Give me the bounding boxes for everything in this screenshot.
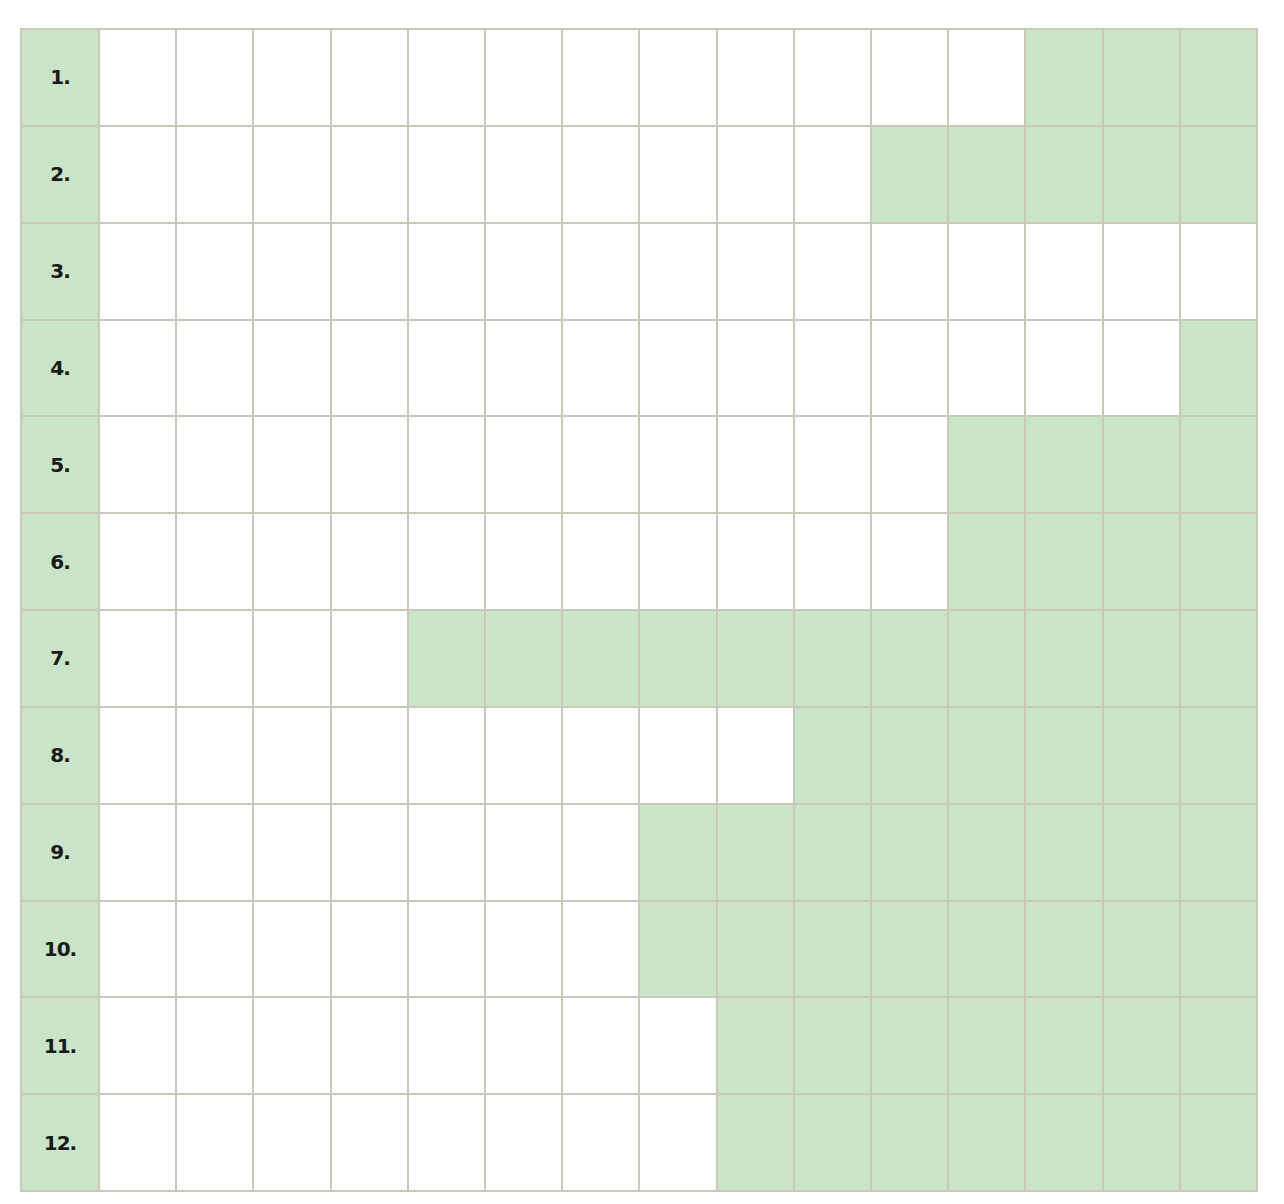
- grid-cell-empty[interactable]: [718, 514, 793, 609]
- grid-cell-empty[interactable]: [332, 321, 407, 416]
- grid-cell-empty[interactable]: [486, 417, 561, 512]
- grid-cell-empty[interactable]: [409, 127, 484, 222]
- grid-cell-empty[interactable]: [100, 417, 175, 512]
- grid-cell-empty[interactable]: [100, 805, 175, 900]
- grid-cell-empty[interactable]: [100, 127, 175, 222]
- grid-cell-empty[interactable]: [332, 1095, 407, 1190]
- grid-cell-empty[interactable]: [177, 127, 252, 222]
- grid-cell-empty[interactable]: [254, 998, 329, 1093]
- grid-cell-empty[interactable]: [177, 708, 252, 803]
- grid-cell-empty[interactable]: [486, 127, 561, 222]
- grid-cell-empty[interactable]: [640, 224, 715, 319]
- grid-cell-empty[interactable]: [332, 902, 407, 997]
- grid-cell-empty[interactable]: [254, 417, 329, 512]
- grid-cell-empty[interactable]: [640, 998, 715, 1093]
- grid-cell-empty[interactable]: [177, 998, 252, 1093]
- grid-cell-empty[interactable]: [100, 321, 175, 416]
- grid-cell-empty[interactable]: [486, 514, 561, 609]
- grid-cell-empty[interactable]: [486, 321, 561, 416]
- grid-cell-empty[interactable]: [177, 1095, 252, 1190]
- grid-cell-empty[interactable]: [332, 708, 407, 803]
- grid-cell-empty[interactable]: [486, 998, 561, 1093]
- grid-cell-empty[interactable]: [563, 902, 638, 997]
- grid-cell-empty[interactable]: [640, 417, 715, 512]
- grid-cell-empty[interactable]: [718, 127, 793, 222]
- grid-cell-empty[interactable]: [718, 30, 793, 125]
- grid-cell-empty[interactable]: [177, 805, 252, 900]
- grid-cell-empty[interactable]: [177, 514, 252, 609]
- grid-cell-empty[interactable]: [332, 805, 407, 900]
- grid-cell-empty[interactable]: [563, 708, 638, 803]
- grid-cell-empty[interactable]: [254, 708, 329, 803]
- grid-cell-empty[interactable]: [486, 30, 561, 125]
- grid-cell-empty[interactable]: [409, 224, 484, 319]
- grid-cell-empty[interactable]: [254, 1095, 329, 1190]
- grid-cell-empty[interactable]: [563, 321, 638, 416]
- grid-cell-empty[interactable]: [100, 902, 175, 997]
- grid-cell-empty[interactable]: [100, 998, 175, 1093]
- grid-cell-empty[interactable]: [177, 417, 252, 512]
- grid-cell-empty[interactable]: [409, 417, 484, 512]
- grid-cell-empty[interactable]: [409, 708, 484, 803]
- grid-cell-empty[interactable]: [486, 805, 561, 900]
- grid-cell-empty[interactable]: [100, 708, 175, 803]
- grid-cell-empty[interactable]: [949, 224, 1024, 319]
- grid-cell-empty[interactable]: [1026, 321, 1101, 416]
- grid-cell-empty[interactable]: [872, 224, 947, 319]
- grid-cell-empty[interactable]: [640, 30, 715, 125]
- grid-cell-empty[interactable]: [177, 902, 252, 997]
- grid-cell-empty[interactable]: [872, 514, 947, 609]
- grid-cell-empty[interactable]: [254, 611, 329, 706]
- grid-cell-empty[interactable]: [718, 417, 793, 512]
- grid-cell-empty[interactable]: [486, 224, 561, 319]
- grid-cell-empty[interactable]: [718, 708, 793, 803]
- grid-cell-empty[interactable]: [177, 321, 252, 416]
- grid-cell-empty[interactable]: [100, 1095, 175, 1190]
- grid-cell-empty[interactable]: [872, 417, 947, 512]
- grid-cell-empty[interactable]: [1104, 321, 1179, 416]
- grid-cell-empty[interactable]: [486, 902, 561, 997]
- grid-cell-empty[interactable]: [254, 127, 329, 222]
- grid-cell-empty[interactable]: [795, 30, 870, 125]
- grid-cell-empty[interactable]: [795, 514, 870, 609]
- grid-cell-empty[interactable]: [563, 514, 638, 609]
- grid-cell-empty[interactable]: [563, 998, 638, 1093]
- grid-cell-empty[interactable]: [254, 30, 329, 125]
- grid-cell-empty[interactable]: [409, 998, 484, 1093]
- grid-cell-empty[interactable]: [332, 127, 407, 222]
- grid-cell-empty[interactable]: [100, 224, 175, 319]
- grid-cell-empty[interactable]: [177, 224, 252, 319]
- grid-cell-empty[interactable]: [254, 321, 329, 416]
- grid-cell-empty[interactable]: [100, 30, 175, 125]
- grid-cell-empty[interactable]: [949, 30, 1024, 125]
- grid-cell-empty[interactable]: [718, 224, 793, 319]
- grid-cell-empty[interactable]: [332, 514, 407, 609]
- grid-cell-empty[interactable]: [100, 611, 175, 706]
- grid-cell-empty[interactable]: [332, 417, 407, 512]
- grid-cell-empty[interactable]: [795, 127, 870, 222]
- grid-cell-empty[interactable]: [177, 30, 252, 125]
- grid-cell-empty[interactable]: [949, 321, 1024, 416]
- grid-cell-empty[interactable]: [872, 30, 947, 125]
- grid-cell-empty[interactable]: [177, 611, 252, 706]
- grid-cell-empty[interactable]: [795, 321, 870, 416]
- grid-cell-empty[interactable]: [409, 805, 484, 900]
- grid-cell-empty[interactable]: [640, 708, 715, 803]
- grid-cell-empty[interactable]: [718, 321, 793, 416]
- grid-cell-empty[interactable]: [409, 514, 484, 609]
- grid-cell-empty[interactable]: [332, 611, 407, 706]
- grid-cell-empty[interactable]: [872, 321, 947, 416]
- grid-cell-empty[interactable]: [640, 321, 715, 416]
- grid-cell-empty[interactable]: [1181, 224, 1256, 319]
- grid-cell-empty[interactable]: [1104, 224, 1179, 319]
- grid-cell-empty[interactable]: [254, 902, 329, 997]
- grid-cell-empty[interactable]: [563, 30, 638, 125]
- grid-cell-empty[interactable]: [640, 1095, 715, 1190]
- grid-cell-empty[interactable]: [100, 514, 175, 609]
- grid-cell-empty[interactable]: [640, 514, 715, 609]
- grid-cell-empty[interactable]: [563, 805, 638, 900]
- grid-cell-empty[interactable]: [486, 1095, 561, 1190]
- grid-cell-empty[interactable]: [486, 708, 561, 803]
- grid-cell-empty[interactable]: [409, 1095, 484, 1190]
- grid-cell-empty[interactable]: [254, 805, 329, 900]
